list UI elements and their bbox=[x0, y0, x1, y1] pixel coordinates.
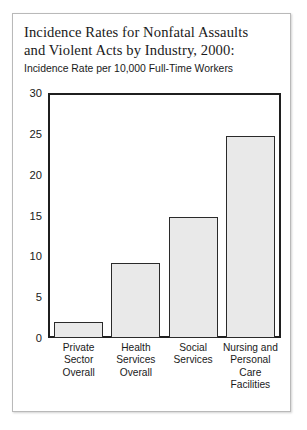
bar bbox=[111, 263, 160, 338]
x-tick-label: HealthServicesOverall bbox=[107, 342, 164, 379]
x-tick-label-line: Services bbox=[107, 354, 164, 366]
x-tick-label-line: Social bbox=[165, 342, 222, 354]
x-tick-label-line: Personal bbox=[222, 354, 279, 366]
x-tick-label-line: Services bbox=[165, 354, 222, 366]
bar-series bbox=[50, 95, 279, 338]
chart-plot-area: 051015202530 PrivateSectorOverallHealthS… bbox=[13, 80, 292, 410]
y-axis: 051015202530 bbox=[13, 80, 46, 351]
x-tick-label-line: Private bbox=[50, 342, 107, 354]
x-tick-label-line: Care bbox=[222, 367, 279, 379]
chart-title-line-1: Incidence Rates for Nonfatal Assaults bbox=[24, 24, 282, 42]
x-tick-label-line: Overall bbox=[107, 367, 164, 379]
x-tick-label: SocialServices bbox=[165, 342, 222, 367]
chart-title: Incidence Rates for Nonfatal Assaults an… bbox=[24, 24, 282, 59]
y-tick-label: 0 bbox=[36, 333, 42, 344]
y-tick-label: 5 bbox=[36, 292, 42, 303]
bar bbox=[169, 217, 218, 339]
x-tick-label-line: Facilities bbox=[222, 379, 279, 391]
x-tick-label: Nursing andPersonalCareFacilities bbox=[222, 342, 279, 391]
x-tick-label-line: Nursing and bbox=[222, 342, 279, 354]
y-tick-label: 15 bbox=[30, 210, 42, 221]
x-tick-label: PrivateSectorOverall bbox=[50, 342, 107, 379]
y-tick-label: 25 bbox=[30, 128, 42, 139]
y-tick-label: 30 bbox=[30, 88, 42, 99]
bar bbox=[226, 136, 275, 339]
y-tick-label: 10 bbox=[30, 251, 42, 262]
figure-card: Incidence Rates for Nonfatal Assaults an… bbox=[12, 13, 291, 412]
chart-subtitle: Incidence Rate per 10,000 Full-Time Work… bbox=[24, 62, 286, 75]
y-tick-label: 20 bbox=[30, 169, 42, 180]
bar bbox=[54, 322, 103, 338]
x-tick-label-line: Sector bbox=[50, 354, 107, 366]
x-tick-label-line: Health bbox=[107, 342, 164, 354]
chart-title-line-2: and Violent Acts by Industry, 2000: bbox=[24, 42, 282, 60]
x-tick-label-line: Overall bbox=[50, 367, 107, 379]
x-axis-labels: PrivateSectorOverallHealthServicesOveral… bbox=[50, 342, 279, 410]
